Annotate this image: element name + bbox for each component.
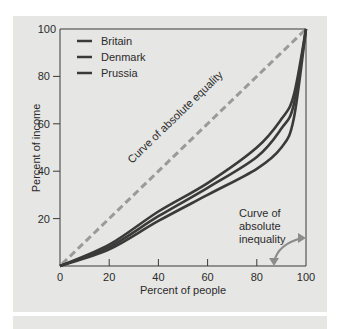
inequality-label-line3: inequality xyxy=(239,233,286,245)
x-tick-label: 80 xyxy=(251,271,263,283)
legend-label-prussia: Prussia xyxy=(101,67,139,79)
inequality-annotation: Curve of absolute inequality xyxy=(239,207,306,266)
x-tick-label: 60 xyxy=(201,271,213,283)
x-axis-title: Percent of people xyxy=(140,284,226,296)
x-tick-label: 20 xyxy=(103,271,115,283)
inequality-label-line2: absolute xyxy=(239,220,281,232)
y-tick-label: 20 xyxy=(38,213,50,225)
legend-label-denmark: Denmark xyxy=(101,51,146,63)
x-axis-ticks: 020406080100 xyxy=(57,259,315,283)
y-axis-title: Percent of income xyxy=(30,104,42,193)
inequality-label-line1: Curve of xyxy=(239,207,282,219)
arrow-head-down xyxy=(269,258,279,266)
equality-label: Curve of absolute equality xyxy=(125,68,225,165)
x-tick-label: 40 xyxy=(152,271,164,283)
y-tick-label: 100 xyxy=(38,23,56,35)
lorenz-chart: 20406080100 020406080100 Percent of inco… xyxy=(0,0,338,329)
y-tick-label: 80 xyxy=(38,70,50,82)
arrow-head-right xyxy=(298,233,306,243)
legend-label-britain: Britain xyxy=(101,35,132,47)
x-tick-label: 0 xyxy=(57,271,63,283)
x-tick-label: 100 xyxy=(297,271,315,283)
legend: Britain Denmark Prussia xyxy=(77,35,146,79)
